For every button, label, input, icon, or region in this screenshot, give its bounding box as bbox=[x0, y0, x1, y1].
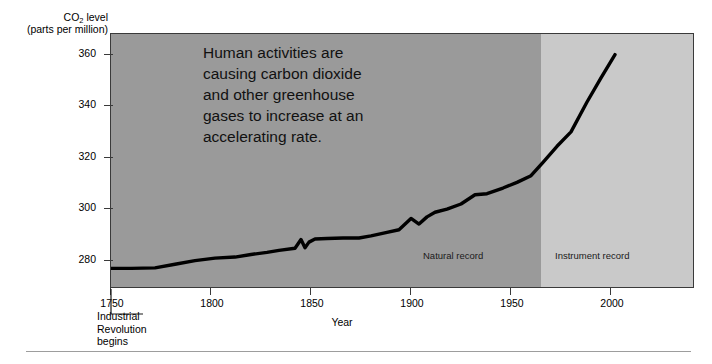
x-tick-mark-1800 bbox=[210, 288, 211, 295]
y-tick-mark-320 bbox=[104, 157, 113, 158]
y-tick-mark-280 bbox=[104, 260, 113, 261]
x-tick-mark-1950 bbox=[510, 288, 511, 295]
y-tick-mark-360 bbox=[104, 54, 113, 55]
callout-line-3: begins bbox=[97, 335, 147, 348]
x-tick-mark-1850 bbox=[310, 288, 311, 295]
y-tick-label-300: 300 bbox=[78, 201, 96, 213]
y-axis-title-co2-post: level bbox=[83, 11, 108, 23]
x-tick-label-1800: 1800 bbox=[182, 297, 242, 309]
x-tick-label-1900: 1900 bbox=[382, 297, 442, 309]
x-tick-label-2000: 2000 bbox=[582, 297, 642, 309]
callout-line-1: Industrial bbox=[97, 310, 147, 323]
y-tick-mark-300 bbox=[104, 208, 113, 209]
x-tick-mark-2000 bbox=[610, 288, 611, 295]
y-tick-label-360: 360 bbox=[78, 47, 96, 59]
bottom-divider-rule bbox=[26, 351, 691, 352]
callout-line-2: Revolution bbox=[97, 323, 147, 336]
co2-line-series bbox=[111, 34, 694, 288]
x-tick-mark-1900 bbox=[410, 288, 411, 295]
industrial-revolution-callout: Industrial Revolution begins bbox=[97, 310, 147, 348]
x-axis-title-text: Year bbox=[331, 316, 352, 328]
y-axis-title-co2-pre: CO bbox=[64, 11, 80, 23]
plot-area: Natural record Instrument record Human a… bbox=[110, 33, 694, 288]
y-tick-label-340: 340 bbox=[78, 98, 96, 110]
co2-line-path bbox=[111, 55, 615, 269]
y-tick-label-280: 280 bbox=[78, 253, 96, 265]
x-tick-label-1950: 1950 bbox=[482, 297, 542, 309]
x-tick-label-1850: 1850 bbox=[282, 297, 342, 309]
co2-level-chart: CO2 level (parts per million) Natural re… bbox=[0, 0, 712, 364]
y-tick-mark-340 bbox=[104, 105, 113, 106]
y-axis-title-line2: (parts per million) bbox=[27, 23, 108, 36]
y-tick-label-320: 320 bbox=[78, 150, 96, 162]
